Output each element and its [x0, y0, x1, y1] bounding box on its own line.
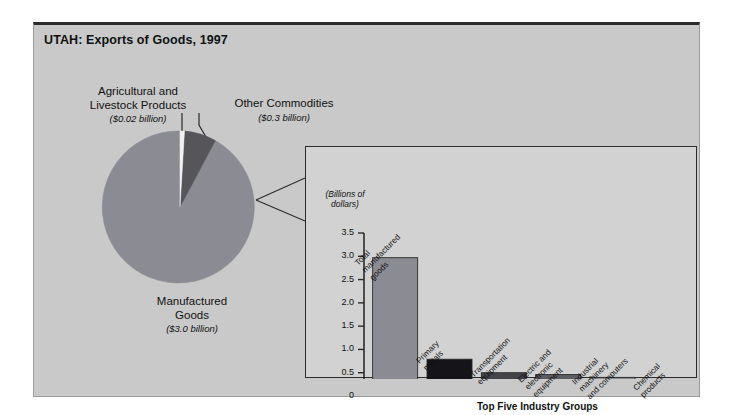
pie-label-other-commodities-value: ($0.3 billion)	[216, 112, 352, 123]
bracket-label: Top Five Industry Groups	[477, 401, 598, 412]
pie-chart-svg	[34, 25, 334, 400]
pie-slice-manufactured	[102, 131, 254, 283]
y-axis-tick-label: 3.5	[328, 227, 354, 237]
bar-chart-panel: (Billions of dollars) 00.51.01.52.02.53.…	[305, 146, 697, 378]
callout-line-top	[256, 178, 305, 200]
pie-chart-block: Agricultural and Livestock Products ($0.…	[34, 25, 334, 400]
y-axis-tick-label: 2.0	[328, 297, 354, 307]
figure-frame: UTAH: Exports of Goods, 1997 Agricultura…	[33, 22, 700, 397]
pie-label-manufactured-goods: Manufactured Goods ($3.0 billion)	[112, 295, 272, 334]
y-axis-tick-label: 1.0	[328, 343, 354, 353]
pie-label-agricultural-name: Agricultural and Livestock Products	[52, 85, 224, 112]
pie-label-other-commodities-name: Other Commodities	[216, 97, 352, 111]
pie-label-manufactured-goods-name: Manufactured Goods	[112, 295, 272, 322]
callout-line-bottom	[256, 200, 305, 221]
y-axis-tick-label: 3.0	[328, 250, 354, 260]
y-axis-tick-label: 0.5	[328, 367, 354, 377]
pie-label-agricultural-value: ($0.02 billion)	[52, 113, 224, 124]
y-axis-tick-label: 2.5	[328, 274, 354, 284]
y-axis-tick-label: 1.5	[328, 320, 354, 330]
pie-label-manufactured-goods-value: ($3.0 billion)	[112, 323, 272, 334]
y-axis-tick-label: 0	[328, 390, 354, 400]
pie-label-agricultural: Agricultural and Livestock Products ($0.…	[52, 85, 224, 124]
pie-label-other-commodities: Other Commodities ($0.3 billion)	[216, 97, 352, 123]
